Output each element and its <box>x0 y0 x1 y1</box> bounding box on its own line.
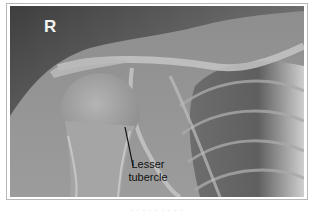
shoulder-xray: R Lesser tubercle <box>10 6 304 197</box>
label-line-1: Lesser <box>118 158 178 171</box>
label-line-2: tubercle <box>118 171 178 184</box>
image-frame: R Lesser tubercle <box>6 3 308 200</box>
lesser-tubercle-label: Lesser tubercle <box>118 158 178 184</box>
side-marker-r: R <box>44 17 56 37</box>
image-caption: · · · · · · · · · <box>0 207 314 214</box>
